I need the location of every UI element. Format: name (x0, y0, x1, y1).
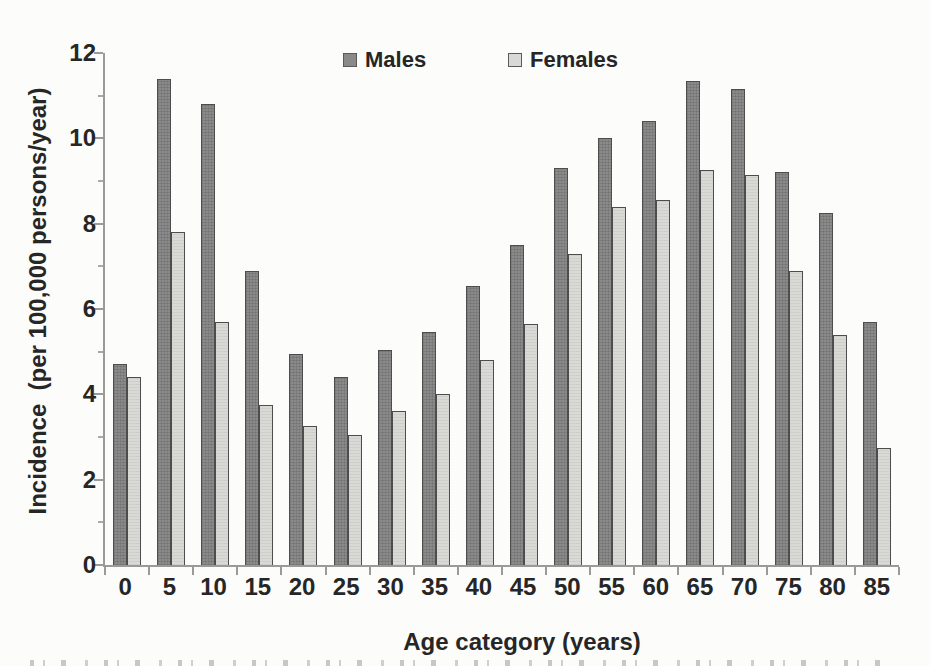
y-minor-tick-3 (98, 436, 103, 438)
x-tick-6 (369, 567, 371, 575)
y-tick-label-12: 12 (30, 41, 96, 65)
bar-males-20 (289, 354, 303, 565)
bar-males-25 (334, 377, 348, 565)
x-tick-5 (325, 567, 327, 575)
y-minor-tick-5 (98, 351, 103, 353)
y-tick-label-0: 0 (30, 553, 96, 577)
x-tick-label-85: 85 (855, 575, 899, 599)
bar-females-20 (303, 426, 317, 565)
category-group-30 (370, 53, 414, 565)
bar-males-15 (245, 271, 259, 565)
x-tick-label-40: 40 (457, 575, 501, 599)
bar-females-65 (700, 170, 714, 565)
category-group-60 (634, 53, 678, 565)
x-tick-9 (501, 567, 503, 575)
x-tick-label-75: 75 (766, 575, 810, 599)
x-tick-label-20: 20 (280, 575, 324, 599)
bar-females-85 (877, 448, 891, 565)
x-tick-17 (854, 567, 856, 575)
x-tick-15 (766, 567, 768, 575)
x-axis-title: Age category (years) (125, 628, 919, 656)
bar-females-40 (480, 360, 494, 565)
bar-males-60 (642, 121, 656, 565)
category-group-40 (458, 53, 502, 565)
plot-area (103, 53, 899, 567)
bar-females-60 (656, 200, 670, 565)
x-tick-label-60: 60 (634, 575, 678, 599)
bar-males-80 (819, 213, 833, 565)
x-tick-label-0: 0 (103, 575, 147, 599)
y-minor-tick-9 (98, 180, 103, 182)
x-tick-12 (633, 567, 635, 575)
bar-males-5 (157, 79, 171, 565)
category-group-35 (414, 53, 458, 565)
bars-container (105, 53, 899, 565)
x-tick-label-35: 35 (413, 575, 457, 599)
bar-males-65 (686, 81, 700, 565)
bar-females-15 (259, 405, 273, 565)
category-group-70 (723, 53, 767, 565)
x-tick-label-50: 50 (545, 575, 589, 599)
bar-females-10 (215, 322, 229, 565)
category-group-50 (546, 53, 590, 565)
figure: Males Females Incidence (per 100,000 per… (0, 0, 930, 666)
bar-females-25 (348, 435, 362, 565)
bar-males-40 (466, 286, 480, 565)
bar-males-30 (378, 350, 392, 565)
x-tick-label-65: 65 (678, 575, 722, 599)
y-minor-tick-7 (98, 265, 103, 267)
bar-females-70 (745, 175, 759, 565)
x-tick-label-5: 5 (147, 575, 191, 599)
y-tick-label-2: 2 (30, 468, 96, 492)
x-tick-16 (810, 567, 812, 575)
x-axis-tick-labels: 0510152025303540455055606570758085 (103, 575, 899, 599)
category-group-25 (326, 53, 370, 565)
x-tick-7 (413, 567, 415, 575)
bar-females-0 (127, 377, 141, 565)
x-tick-2 (192, 567, 194, 575)
category-group-10 (193, 53, 237, 565)
x-tick-label-70: 70 (722, 575, 766, 599)
category-group-65 (678, 53, 722, 565)
bar-males-55 (598, 138, 612, 565)
y-minor-tick-1 (98, 521, 103, 523)
category-group-80 (811, 53, 855, 565)
bar-males-75 (775, 172, 789, 565)
bar-males-10 (201, 104, 215, 565)
category-group-0 (105, 53, 149, 565)
y-tick-label-10: 10 (30, 126, 96, 150)
bar-females-45 (524, 324, 538, 565)
x-tick-label-55: 55 (589, 575, 633, 599)
bar-females-5 (171, 232, 185, 565)
x-tick-14 (722, 567, 724, 575)
x-tick-1 (148, 567, 150, 575)
category-group-15 (237, 53, 281, 565)
y-tick-label-4: 4 (30, 382, 96, 406)
bar-males-85 (863, 322, 877, 565)
bar-males-45 (510, 245, 524, 565)
x-tick-8 (457, 567, 459, 575)
bar-males-35 (422, 332, 436, 565)
bar-females-75 (789, 271, 803, 565)
y-minor-tick-11 (98, 95, 103, 97)
x-tick-4 (280, 567, 282, 575)
x-tick-13 (677, 567, 679, 575)
category-group-55 (590, 53, 634, 565)
bar-females-80 (833, 335, 847, 565)
category-group-5 (149, 53, 193, 565)
x-tick-11 (589, 567, 591, 575)
x-tick-label-15: 15 (236, 575, 280, 599)
category-group-20 (281, 53, 325, 565)
x-tick-0 (104, 567, 106, 575)
x-tick-18 (898, 567, 900, 575)
bar-males-50 (554, 168, 568, 565)
category-group-75 (767, 53, 811, 565)
bar-females-30 (392, 411, 406, 565)
y-tick-label-8: 8 (30, 212, 96, 236)
x-tick-label-80: 80 (811, 575, 855, 599)
bar-females-50 (568, 254, 582, 565)
category-group-45 (502, 53, 546, 565)
x-tick-label-25: 25 (324, 575, 368, 599)
bar-males-70 (731, 89, 745, 565)
cutoff-caption-remnant (30, 660, 892, 666)
